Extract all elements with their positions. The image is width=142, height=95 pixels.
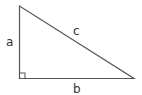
- label-side-c: c: [73, 24, 80, 38]
- label-side-a: a: [6, 35, 13, 49]
- right-angle-marker: [20, 73, 26, 79]
- triangle-shape: [20, 6, 135, 79]
- label-side-b: b: [73, 82, 81, 95]
- right-triangle-diagram: a c b: [0, 0, 142, 95]
